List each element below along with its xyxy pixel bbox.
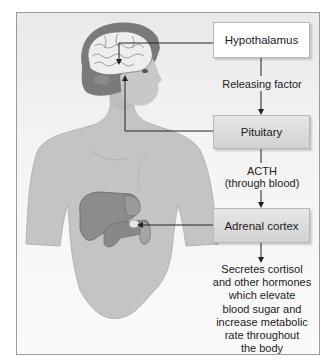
adrenal-cortex-box: Adrenal cortex [213,208,310,243]
hypothalamus-box: Hypothalamus [213,22,310,58]
adrenal-cortex-label: Adrenal cortex [224,220,298,232]
outcome-line: which elevate [205,289,319,302]
outcome-line: Secretes cortisol [205,263,319,276]
outcome-description: Secretes cortisol and other hormones whi… [205,263,319,355]
outcome-line: increase metabolic [205,316,319,329]
releasing-factor-label: Releasing factor [200,78,324,91]
outcome-line: and other hormones [205,276,319,289]
acth-label: ACTH [200,165,324,178]
outcome-line: the body [205,342,319,355]
outcome-line: rate throughout [205,329,319,342]
hypothalamus-label: Hypothalamus [225,34,299,46]
cerebellum-illustration [94,75,110,85]
adrenal-gland-illustration [129,220,139,228]
outcome-line: blood sugar and [205,303,319,316]
through-blood-label: (through blood) [200,177,324,190]
pituitary-box: Pituitary [213,115,310,149]
pituitary-label: Pituitary [241,126,283,138]
